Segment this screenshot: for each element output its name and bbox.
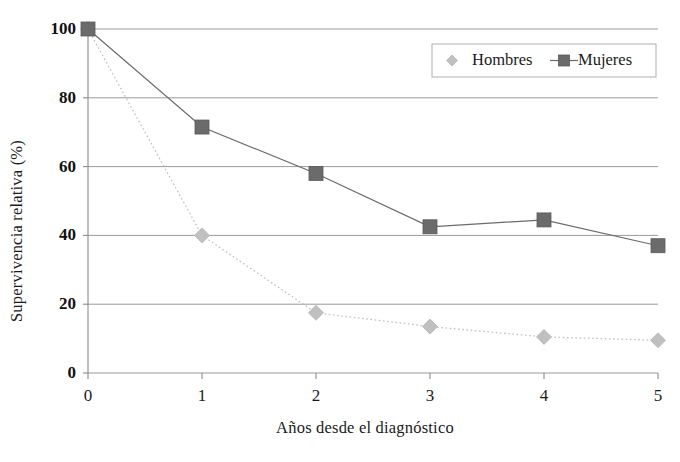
x-tick-label: 3 [426,386,435,405]
relative-survival-chart: Supervivencia relativa (%) 020406080100 … [0,0,680,462]
data-point-hombres[interactable] [423,319,438,334]
x-axis-title: Años desde el diagnóstico [70,418,660,438]
data-point-hombres[interactable] [651,333,666,348]
y-tick-label: 80 [59,88,76,107]
y-tick-group: 020406080100 [51,19,89,382]
data-point-hombres[interactable] [309,305,324,320]
x-tick-label: 2 [312,386,321,405]
legend-marker-mujeres [559,55,570,66]
x-tick-group: 012345 [84,373,663,405]
data-point-mujeres[interactable] [81,22,95,36]
data-point-mujeres[interactable] [537,213,551,227]
y-tick-label: 60 [59,157,76,176]
data-point-mujeres[interactable] [309,166,323,180]
y-tick-label: 40 [59,225,76,244]
x-tick-label: 0 [84,386,93,405]
y-tick-label: 20 [59,294,76,313]
y-tick-label: 0 [68,363,77,382]
data-point-hombres[interactable] [537,329,552,344]
legend-label-mujeres[interactable]: Mujeres [578,50,632,69]
y-tick-label: 100 [51,19,77,38]
data-point-mujeres[interactable] [195,120,209,134]
plot-area: 020406080100 012345 HombresMujeres [0,0,680,462]
legend[interactable]: HombresMujeres [432,44,656,77]
data-point-mujeres[interactable] [651,239,665,253]
legend-label-hombres[interactable]: Hombres [472,50,533,69]
data-point-hombres[interactable] [195,228,210,243]
x-tick-label: 1 [198,386,207,405]
gridlines-group [88,29,658,373]
x-tick-label: 5 [654,386,663,405]
x-tick-label: 4 [540,386,549,405]
data-point-mujeres[interactable] [423,220,437,234]
